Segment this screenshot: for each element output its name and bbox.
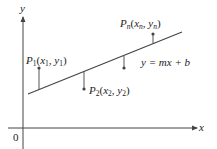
point-label-p1: P1(x1, y1) [25,54,67,68]
point-pn: Pn(xn, yn) [119,17,161,44]
y-axis-label: y [19,2,25,14]
regression-diagram: x y 0 P1(x1, y1) P2(x2, y2) Pn(xn, yn) y… [0,0,217,149]
point-p1: P1(x1, y1) [25,54,67,90]
point-marker-p1 [37,66,40,69]
point-p3 [122,56,125,70]
point-p2: P2(x2, y2) [82,72,130,99]
line-equation: y = mx + b [140,56,191,68]
x-axis-label: x [198,121,204,133]
point-label-p2: P2(x2, y2) [88,84,130,98]
point-marker-p3 [122,66,125,69]
point-marker-pn [151,32,154,35]
point-label-pn: Pn(xn, yn) [119,17,161,31]
origin-label: 0 [13,131,19,143]
point-marker-p2 [82,87,85,90]
